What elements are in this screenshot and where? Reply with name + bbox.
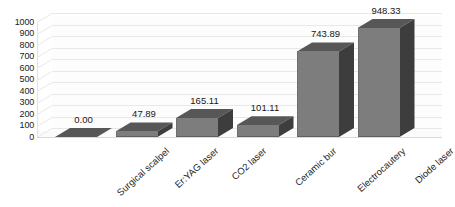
x-axis-label-diode-laser: Diode laser bbox=[413, 146, 455, 186]
x-axis-label-surgical-scalpel: Surgical scalpel bbox=[115, 146, 171, 198]
x-axis-label-er-yag-laser: Er:YAG laser bbox=[173, 146, 220, 190]
x-axis-label-electrocautery: Electrocautery bbox=[356, 146, 408, 194]
x-axis-label-ceramic-bur: Ceramic bur bbox=[293, 146, 338, 188]
x-axis-label-co2-laser: CO2 laser bbox=[230, 146, 268, 182]
